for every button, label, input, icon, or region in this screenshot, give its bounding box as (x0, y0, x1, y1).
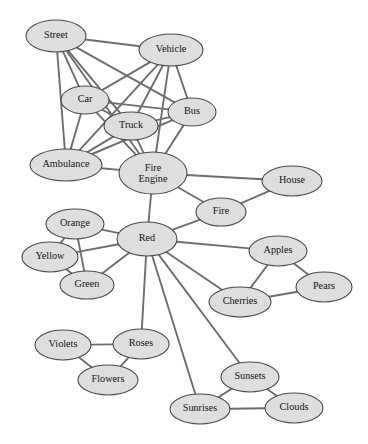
node-shape-roses[interactable] (113, 329, 169, 359)
node-shape-cherries[interactable] (209, 287, 271, 317)
edge-apples-cherries (251, 265, 268, 288)
edge-fire-red (172, 220, 200, 230)
edge-orange-green (78, 239, 84, 271)
node-violets[interactable]: Violets (35, 330, 91, 360)
node-street[interactable]: Street (26, 20, 86, 52)
node-clouds[interactable]: Clouds (265, 393, 323, 423)
edge-red-roses (142, 256, 146, 329)
node-shape-red[interactable] (117, 222, 177, 256)
node-shape-bus[interactable] (168, 98, 216, 126)
node-shape-vehicle[interactable] (139, 34, 203, 66)
node-vehicle[interactable]: Vehicle (139, 34, 203, 66)
node-shape-pears[interactable] (296, 272, 352, 302)
edge-red-apples (177, 242, 250, 249)
node-bus[interactable]: Bus (168, 98, 216, 126)
edge-sunsets-sunrises (218, 389, 231, 398)
node-sunrises[interactable]: Sunrises (170, 394, 230, 424)
edge-sunsets-clouds (267, 389, 277, 396)
node-shape-green[interactable] (60, 271, 114, 299)
node-shape-sunrises[interactable] (170, 394, 230, 424)
node-shape-apples[interactable] (249, 236, 307, 266)
edge-violets-flowers (79, 357, 92, 367)
node-sunsets[interactable]: Sunsets (221, 362, 279, 392)
edge-truck-bus (156, 117, 170, 120)
edge-fire-engine-fire (178, 187, 204, 202)
edge-fire-engine-red (149, 194, 152, 222)
node-shape-ambulance[interactable] (30, 149, 102, 181)
network-graph-svg: StreetVehicleCarBusTruckAmbulanceFireEng… (0, 0, 368, 444)
node-green[interactable]: Green (60, 271, 114, 299)
node-shape-orange[interactable] (46, 209, 104, 239)
edge-car-ambulance (71, 114, 81, 149)
edge-yellow-red (76, 244, 118, 252)
edge-apples-pears (294, 264, 308, 275)
node-shape-violets[interactable] (35, 330, 91, 360)
edge-bus-fire-engine (165, 125, 183, 153)
node-fire[interactable]: Fire (196, 198, 246, 226)
node-ambulance[interactable]: Ambulance (30, 149, 102, 181)
edge-green-red (102, 253, 129, 274)
edge-red-cherries (166, 252, 222, 290)
edge-orange-yellow (61, 238, 65, 243)
node-red[interactable]: Red (117, 222, 177, 256)
edge-roses-flowers (121, 357, 129, 366)
node-shape-car[interactable] (61, 86, 109, 114)
node-layer: StreetVehicleCarBusTruckAmbulanceFireEng… (22, 20, 352, 424)
node-shape-truck[interactable] (104, 112, 158, 140)
node-yellow[interactable]: Yellow (22, 242, 78, 272)
edge-house-fire (241, 191, 270, 204)
edge-street-vehicle (85, 40, 140, 47)
node-car[interactable]: Car (61, 86, 109, 114)
node-flowers[interactable]: Flowers (78, 365, 138, 395)
node-fire-engine[interactable]: FireEngine (119, 152, 187, 194)
node-shape-street[interactable] (26, 20, 86, 52)
edge-ambulance-fire-engine (101, 168, 119, 170)
node-shape-flowers[interactable] (78, 365, 138, 395)
node-house[interactable]: House (262, 166, 322, 196)
node-shape-yellow[interactable] (22, 242, 78, 272)
edge-red-sunrises (152, 256, 195, 394)
node-shape-clouds[interactable] (265, 393, 323, 423)
node-cherries[interactable]: Cherries (209, 287, 271, 317)
edge-yellow-green (66, 269, 72, 273)
edge-fire-engine-house (187, 175, 262, 179)
node-shape-fire-engine[interactable] (119, 152, 187, 194)
semantic-network-diagram: StreetVehicleCarBusTruckAmbulanceFireEng… (0, 0, 368, 444)
edge-cherries-pears (269, 292, 297, 297)
node-shape-fire[interactable] (196, 198, 246, 226)
node-shape-sunsets[interactable] (221, 362, 279, 392)
node-shape-house[interactable] (262, 166, 322, 196)
node-pears[interactable]: Pears (296, 272, 352, 302)
node-apples[interactable]: Apples (249, 236, 307, 266)
node-orange[interactable]: Orange (46, 209, 104, 239)
node-truck[interactable]: Truck (104, 112, 158, 140)
edge-vehicle-bus (176, 66, 187, 98)
edge-orange-red (102, 230, 119, 234)
node-roses[interactable]: Roses (113, 329, 169, 359)
